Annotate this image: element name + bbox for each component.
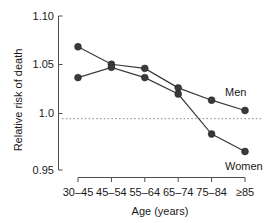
x-tick-label-0: 30–45: [63, 186, 94, 198]
data-point: [108, 64, 115, 71]
x-axis-spine: [78, 178, 245, 183]
series-line-women: [78, 67, 245, 151]
y-axis-title: Relative risk of death: [12, 49, 24, 152]
data-point: [208, 131, 215, 138]
data-point: [175, 91, 182, 98]
data-point: [208, 97, 215, 104]
x-tick-label-3: 65–74: [163, 186, 194, 198]
data-point: [141, 65, 148, 72]
data-point: [75, 43, 82, 50]
y-tick-label-1: 1.05: [33, 58, 54, 70]
x-tick-label-2: 55–64: [130, 186, 161, 198]
data-point: [141, 74, 148, 81]
data-point: [75, 74, 82, 81]
y-axis-spine: [59, 16, 63, 170]
data-point: [242, 107, 249, 114]
data-point: [242, 148, 249, 155]
x-axis-title: Age (years): [132, 205, 189, 217]
x-tick-label-4: 75–84: [196, 186, 227, 198]
chart-canvas: 1.10 1.05 1.0 0.95 Relative risk of deat…: [0, 0, 274, 223]
x-tick-label-5: ≥85: [236, 186, 254, 198]
series-label-women: Women: [225, 160, 263, 172]
x-tick-label-1: 45–54: [96, 186, 127, 198]
y-tick-label-2: 1.0: [39, 107, 54, 119]
relative-risk-of-death-chart: 1.10 1.05 1.0 0.95 Relative risk of deat…: [0, 0, 274, 223]
series-line-men: [78, 47, 245, 111]
y-tick-label-3: 0.95: [33, 164, 54, 176]
y-tick-label-0: 1.10: [33, 10, 54, 22]
series-label-men: Men: [225, 86, 246, 98]
data-point: [175, 84, 182, 91]
